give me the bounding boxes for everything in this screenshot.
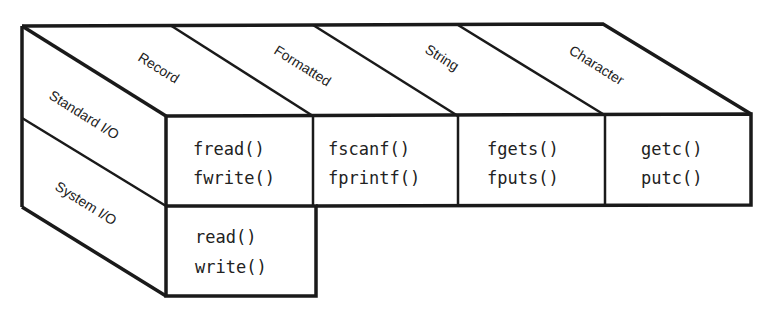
top-divider-string-character: [458, 25, 603, 114]
cell-record-read: fread(): [193, 139, 265, 159]
row-label-standard-io: Standard I/O: [46, 87, 122, 143]
cell-system-read: read(): [195, 227, 256, 247]
cell-character-write: putc(): [641, 168, 702, 188]
cell-record-write: fwrite(): [193, 168, 275, 188]
top-left-edge: [22, 26, 166, 116]
column-label-character: Character: [566, 42, 627, 88]
top-face: [22, 24, 751, 116]
column-label-string: String: [422, 41, 461, 74]
top-back-edge: [22, 24, 751, 114]
column-label-record: Record: [135, 49, 182, 86]
cell-formatted-read: fscanf(): [328, 139, 410, 159]
cell-string-write: fputs(): [487, 168, 559, 188]
row-label-system-io: System I/O: [52, 178, 119, 228]
left-bottom-edge: [22, 207, 166, 296]
io-functions-diagram: Record Formatted String Character Standa…: [0, 0, 781, 315]
cell-formatted-write: fprintf(): [328, 168, 420, 188]
top-divider-formatted-string: [313, 25, 458, 116]
cell-system-write: write(): [195, 257, 267, 277]
top-divider-record-formatted: [170, 25, 313, 116]
cell-string-read: fgets(): [487, 139, 559, 159]
left-row-divider: [22, 118, 166, 206]
cell-character-read: getc(): [641, 139, 702, 159]
column-label-formatted: Formatted: [271, 42, 334, 89]
